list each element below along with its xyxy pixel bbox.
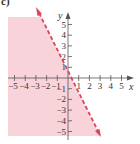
y-axis-arrow-icon [66, 12, 71, 19]
svg-text:4: 4 [109, 81, 114, 91]
svg-text:−3: −3 [30, 81, 40, 91]
x-axis-arrow-icon [127, 76, 134, 81]
inequality-graph: −5 −4 −3 −2 −1 1 2 3 4 5 5 4 3 2 1 −1 −2… [0, 0, 140, 144]
svg-text:−5: −5 [56, 127, 66, 137]
svg-text:−1: −1 [56, 84, 66, 94]
svg-text:−4: −4 [56, 116, 66, 126]
x-axis-label: x [128, 81, 134, 92]
svg-text:−2: −2 [41, 81, 51, 91]
svg-text:4: 4 [62, 30, 67, 40]
svg-text:3: 3 [98, 81, 103, 91]
svg-text:−5: −5 [8, 81, 18, 91]
svg-text:−4: −4 [19, 81, 29, 91]
svg-text:−2: −2 [56, 94, 66, 104]
svg-text:5: 5 [119, 81, 124, 91]
svg-text:−3: −3 [56, 105, 66, 115]
graph-svg: −5 −4 −3 −2 −1 1 2 3 4 5 5 4 3 2 1 −1 −2… [0, 0, 140, 144]
svg-text:2: 2 [87, 81, 92, 91]
part-label: c) [1, 0, 10, 8]
boundary-arrow-top-icon [36, 7, 42, 16]
svg-text:5: 5 [62, 20, 67, 30]
svg-text:3: 3 [62, 41, 67, 51]
y-axis-label: y [57, 10, 63, 21]
shaded-region [8, 17, 100, 136]
